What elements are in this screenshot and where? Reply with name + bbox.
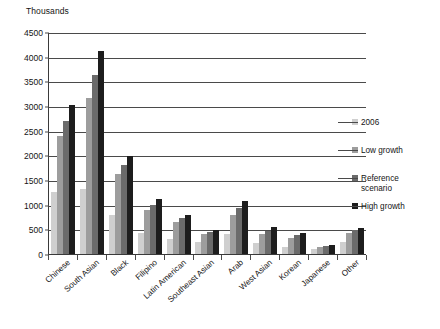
x-axis-tick-mark bbox=[366, 255, 367, 260]
y-axis-tick-label: 1000 bbox=[24, 201, 43, 211]
legend-label: High growth bbox=[361, 202, 405, 212]
bar-group bbox=[280, 33, 309, 254]
bar-group bbox=[78, 33, 107, 254]
legend-item[interactable]: High growth bbox=[352, 202, 405, 212]
bar bbox=[242, 201, 248, 254]
legend-label: Low growth bbox=[361, 146, 403, 156]
legend-item[interactable]: Referencescenario bbox=[352, 174, 399, 193]
y-axis-tick-label: 2500 bbox=[24, 127, 43, 137]
bar-group bbox=[135, 33, 164, 254]
x-axis-label: Arab bbox=[239, 258, 245, 265]
bar bbox=[127, 156, 133, 254]
x-axis-label: Filipino bbox=[153, 258, 159, 265]
y-axis-tick-label: 0 bbox=[38, 250, 43, 260]
bar bbox=[98, 51, 104, 254]
bar-group bbox=[222, 33, 251, 254]
legend-connector-line bbox=[338, 206, 358, 207]
x-axis-label: Japanese bbox=[326, 258, 332, 265]
x-axis-label: South Asian bbox=[95, 258, 101, 265]
bar bbox=[156, 199, 162, 254]
bar-group bbox=[308, 33, 337, 254]
y-axis-tick-label: 1500 bbox=[24, 176, 43, 186]
legend-connector-line bbox=[338, 178, 358, 179]
bar bbox=[185, 215, 191, 254]
legend-connector-line bbox=[338, 122, 358, 123]
bar-group bbox=[251, 33, 280, 254]
x-axis-label: Korean bbox=[297, 258, 303, 265]
y-axis-tick-label: 3000 bbox=[24, 102, 43, 112]
x-axis-label: West Asian bbox=[268, 258, 274, 265]
y-axis-unit-caption: Thousands bbox=[26, 6, 69, 16]
y-axis-tick-label: 3500 bbox=[24, 77, 43, 87]
plot-area: 450040003500300025002000150010005000 bbox=[48, 33, 366, 255]
legend-item[interactable]: 2006 bbox=[352, 118, 379, 128]
x-axis-labels: ChineseSouth AsianBlackFilipinoLatin Ame… bbox=[48, 258, 366, 328]
bar-group bbox=[193, 33, 222, 254]
bar bbox=[69, 105, 75, 254]
legend-item[interactable]: Low growth bbox=[352, 146, 403, 156]
x-axis-label: Black bbox=[124, 258, 130, 265]
y-axis-tick-label: 4500 bbox=[24, 28, 43, 38]
bar-group bbox=[49, 33, 78, 254]
x-axis-label: Chinese bbox=[66, 258, 72, 265]
bar bbox=[300, 233, 306, 254]
chart-legend: 2006Low growthReferencescenarioHigh grow… bbox=[352, 118, 440, 223]
y-axis-tick-label: 500 bbox=[29, 225, 43, 235]
bar-group bbox=[164, 33, 193, 254]
bar-groups bbox=[49, 33, 366, 254]
y-axis-tick-label: 4000 bbox=[24, 53, 43, 63]
bar bbox=[358, 228, 364, 254]
chart-figure: Thousands 450040003500300025002000150010… bbox=[0, 0, 440, 329]
legend-label: 2006 bbox=[361, 118, 379, 128]
x-axis-label: Latin American bbox=[182, 258, 188, 265]
x-axis-label: Other bbox=[355, 258, 361, 265]
legend-label: Referencescenario bbox=[361, 174, 399, 193]
bar-group bbox=[107, 33, 136, 254]
x-axis-label: Southeast Asian bbox=[210, 258, 216, 265]
bar bbox=[213, 230, 219, 254]
bar bbox=[271, 227, 277, 254]
bar bbox=[329, 245, 335, 254]
legend-label-line2: scenario bbox=[361, 184, 392, 193]
y-axis-tick-label: 2000 bbox=[24, 151, 43, 161]
legend-connector-line bbox=[338, 150, 358, 151]
